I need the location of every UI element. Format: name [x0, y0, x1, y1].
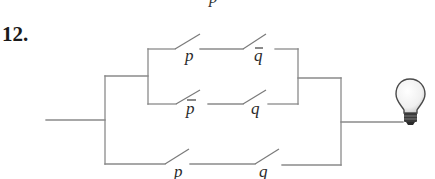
- switch-label: q: [254, 46, 263, 65]
- switch-label: q: [251, 99, 260, 118]
- switch-label: q: [259, 162, 268, 179]
- branch-bottom: p q: [105, 149, 341, 179]
- branch-top: p q: [148, 34, 298, 65]
- light-bulb-icon: [396, 79, 425, 125]
- circuit-diagram: p q p q p q: [0, 0, 435, 179]
- switch-label: p: [173, 162, 183, 179]
- switch-label: p: [185, 99, 195, 118]
- switch-label: p: [184, 46, 194, 65]
- branch-middle: p q: [148, 90, 298, 118]
